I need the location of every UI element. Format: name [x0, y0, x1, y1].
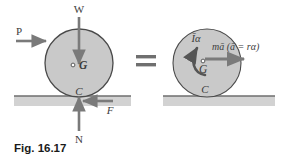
- label-center-of-mass-left: G: [79, 59, 88, 71]
- right-ground-surface: [163, 96, 275, 106]
- label-contact-point-right: C: [201, 83, 209, 95]
- figure-16-17: W P G C F N: [0, 0, 288, 161]
- label-inertia-couple: Īα: [190, 33, 200, 44]
- label-weight: W: [74, 3, 85, 15]
- right-effective-force-diagram: Īα G mā (ā = rα) C: [163, 29, 275, 106]
- label-ma: mā: [212, 41, 224, 52]
- figure-canvas: W P G C F N: [0, 0, 288, 161]
- left-center-marker: [71, 63, 75, 67]
- equals-sign: [136, 55, 156, 66]
- label-normal-force: N: [75, 133, 83, 145]
- label-center-of-mass-right: G: [199, 63, 208, 75]
- left-free-body-diagram: W P G C F N: [14, 3, 131, 145]
- label-contact-point-left: C: [75, 85, 83, 97]
- label-applied-force: P: [16, 25, 22, 37]
- left-ground-surface: [14, 96, 131, 106]
- label-friction: F: [106, 104, 114, 116]
- label-kinematic-relation: (ā = rα): [224, 41, 260, 53]
- label-inertia-vector: mā (ā = rα): [212, 41, 260, 53]
- figure-caption: Fig. 16.17: [14, 142, 66, 154]
